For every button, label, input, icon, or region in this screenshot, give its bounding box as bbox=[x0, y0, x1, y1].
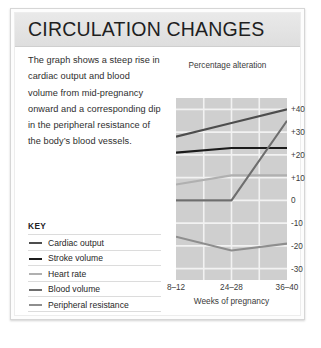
chart: Percentage alteration +40+30+20+100-10-2… bbox=[165, 61, 298, 301]
body-paragraph: The graph shows a steep rise in cardiac … bbox=[28, 52, 162, 150]
legend-item-label: Cardiac output bbox=[48, 238, 104, 248]
title-band: CIRCULATION CHANGES bbox=[15, 13, 300, 47]
legend-swatch-icon bbox=[29, 289, 42, 291]
y-axis-title: Percentage alteration bbox=[165, 61, 290, 70]
plot-svg bbox=[176, 98, 287, 280]
x-axis-title: Weeks of pregnancy bbox=[176, 296, 287, 306]
x-axis-tick-label: 24–28 bbox=[220, 283, 243, 292]
page-root: CIRCULATION CHANGES The graph shows a st… bbox=[0, 0, 321, 348]
legend-item: Heart rate bbox=[28, 265, 161, 281]
y-axis-tick-label: -30 bbox=[291, 264, 303, 273]
legend-item: Peripheral resistance bbox=[28, 296, 161, 312]
y-axis-tick-label: +30 bbox=[291, 128, 305, 137]
y-axis-tick-label: +40 bbox=[291, 105, 305, 114]
y-axis-tick-label: +20 bbox=[291, 150, 305, 159]
figure-card: CIRCULATION CHANGES The graph shows a st… bbox=[10, 8, 305, 320]
y-axis-tick-label: -20 bbox=[291, 241, 303, 250]
legend-item-label: Blood volume bbox=[48, 284, 100, 294]
key-heading: KEY bbox=[28, 221, 46, 231]
x-axis-tick-label: 8–12 bbox=[167, 283, 185, 292]
legend-swatch-icon bbox=[29, 258, 42, 260]
legend-item-label: Heart rate bbox=[48, 269, 86, 279]
legend-item: Blood volume bbox=[28, 281, 161, 297]
legend-swatch-icon bbox=[29, 273, 42, 275]
page-title: CIRCULATION CHANGES bbox=[28, 18, 264, 41]
legend-list: Cardiac outputStroke volumeHeart rateBlo… bbox=[28, 234, 161, 312]
y-axis-tick-label: -10 bbox=[291, 219, 303, 228]
legend-item-label: Peripheral resistance bbox=[48, 300, 129, 310]
figure-card-inner: CIRCULATION CHANGES The graph shows a st… bbox=[14, 12, 301, 316]
legend-item-label: Stroke volume bbox=[48, 253, 103, 263]
legend-item: Cardiac output bbox=[28, 234, 161, 250]
y-axis-tick-label: +10 bbox=[291, 173, 305, 182]
legend-swatch-icon bbox=[29, 304, 42, 306]
y-axis-tick-label: 0 bbox=[291, 196, 296, 205]
x-axis-tick-label: 36–40 bbox=[276, 283, 299, 292]
plot-area bbox=[176, 98, 287, 280]
legend-swatch-icon bbox=[29, 242, 42, 244]
legend-item: Stroke volume bbox=[28, 250, 161, 266]
